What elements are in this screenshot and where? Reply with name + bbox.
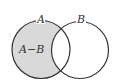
set-b-label: B <box>76 13 85 26</box>
venn-diagram: A B A−B <box>0 0 114 84</box>
region-a-minus-b-label: A−B <box>18 43 44 56</box>
set-a-label: A <box>36 13 45 26</box>
